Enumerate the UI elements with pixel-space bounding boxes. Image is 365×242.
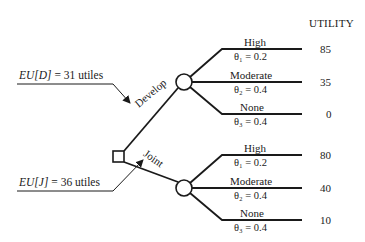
develop-moderate-label: Moderate	[230, 70, 272, 81]
joint-high-label: High	[244, 143, 266, 154]
joint-none-prob: θ₃ = 0.4	[234, 223, 267, 234]
decision-tree-diagram: UTILITY EU[D] = 31 utiles EU[J] = 36 uti…	[0, 0, 365, 242]
joint-high-utility: 80	[320, 150, 331, 161]
develop-high-prob: θ₁ = 0.2	[234, 52, 267, 63]
develop-moderate-utility: 35	[320, 77, 331, 88]
joint-moderate-utility: 40	[320, 183, 331, 194]
eu-develop-pointer	[17, 84, 130, 103]
develop-high-utility: 85	[320, 44, 331, 55]
eu-joint-value: = 36 utiles	[48, 176, 100, 188]
joint-none-label: None	[240, 208, 264, 219]
joint-high-prob: θ₁ = 0.2	[234, 158, 267, 169]
develop-none-label: None	[240, 102, 264, 113]
eu-develop-label: EU[D] = 31 utiles	[19, 70, 103, 82]
develop-high-label: High	[244, 37, 266, 48]
utility-header: UTILITY	[309, 18, 354, 29]
decision-node-square	[113, 151, 124, 162]
eu-joint-var: EU[J]	[19, 176, 48, 188]
joint-branch-line	[124, 162, 178, 182]
joint-moderate-label: Moderate	[230, 176, 272, 187]
eu-joint-label: EU[J] = 36 utiles	[19, 177, 100, 189]
eu-develop-var: EU[D]	[19, 69, 52, 81]
joint-none-utility: 10	[320, 215, 331, 226]
tree-lines	[0, 0, 365, 242]
develop-moderate-prob: θ₂ = 0.4	[234, 85, 267, 96]
develop-none-utility: 0	[326, 109, 332, 120]
develop-none-prob: θ₃ = 0.4	[234, 117, 267, 128]
joint-moderate-prob: θ₂ = 0.4	[234, 191, 267, 202]
eu-develop-value: = 31 utiles	[52, 69, 104, 81]
